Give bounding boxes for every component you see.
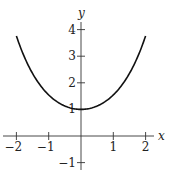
y-tick-label: 3	[68, 49, 76, 63]
x-tick-label: 1	[109, 140, 117, 154]
y-axis-label: y	[77, 6, 85, 20]
chart-svg: −2−112−11234 x y	[0, 0, 173, 173]
x-tick-label: −2	[5, 140, 23, 154]
y-tick-label: −1	[58, 156, 76, 170]
x-axis-label: x	[158, 129, 165, 143]
y-tick-label: 2	[68, 76, 76, 90]
chart-container: −2−112−11234 x y	[0, 0, 173, 173]
x-tick-label: −1	[37, 140, 55, 154]
y-tick-label: 4	[68, 23, 76, 37]
axes	[3, 22, 154, 170]
x-tick-label: 2	[142, 140, 150, 154]
ticks: −2−112−11234	[5, 23, 150, 170]
